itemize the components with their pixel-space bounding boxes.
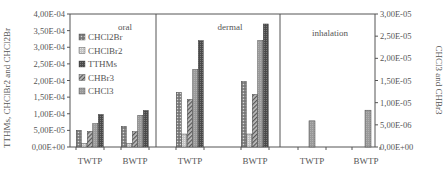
panel-label: inhalation (312, 28, 348, 38)
panel-label: oral (118, 22, 132, 32)
bar-chcl3 (193, 70, 198, 147)
right-tick-label: 5,00E-06 (380, 120, 411, 130)
bar-chcl2br (76, 130, 81, 147)
left-tick-label: 1,50E-04 (34, 92, 66, 102)
legend-swatch (79, 75, 85, 81)
left-tick-label: 4,00E-04 (34, 9, 66, 19)
x-tick-label: BWTP (353, 156, 378, 166)
left-y-axis: 0,00E+005,00E-051,00E-041,50E-042,00E-04… (32, 9, 70, 152)
bar-chcl2br (176, 92, 181, 147)
bar-chclbr2 (182, 134, 187, 147)
x-tick-label: TWTP (78, 156, 103, 166)
x-tick-label: TWTP (300, 156, 325, 166)
legend-label: TTHMs (88, 59, 117, 69)
left-tick-label: 5,00E-05 (34, 125, 65, 135)
right-tick-label: 3,00E-05 (380, 9, 411, 19)
bar-chbr3 (87, 131, 92, 147)
bar-chcl2br (241, 81, 246, 147)
right-tick-label: 0,00E+00 (380, 142, 413, 152)
bar-chclbr2 (82, 144, 87, 147)
bar-chcl2br (121, 126, 126, 147)
bar-chcl3-inhalation (365, 110, 371, 147)
left-tick-label: 3,50E-04 (34, 26, 66, 36)
x-tick-label: BWTP (242, 156, 267, 166)
right-axis-label: CHCl3 and CHBr3 (434, 45, 444, 115)
left-tick-label: 2,00E-04 (34, 76, 66, 86)
bar-tthms (263, 24, 268, 147)
right-tick-label: 2,50E-05 (380, 31, 411, 41)
bar-chbr3 (132, 132, 137, 147)
bar-chbr3 (252, 94, 257, 147)
right-tick-label: 1,50E-05 (380, 76, 411, 86)
legend-label: CHCl3 (88, 86, 114, 96)
bars (76, 24, 371, 147)
bar-chcl3-inhalation (309, 121, 315, 147)
panel-label: dermal (218, 22, 243, 32)
bar-chcl3 (258, 41, 263, 147)
bar-chclbr2 (247, 134, 252, 147)
legend-swatch (79, 48, 85, 54)
left-tick-label: 2,50E-04 (34, 59, 66, 69)
x-axis: TWTPBWTPTWTPBWTPTWTPBWTP (76, 147, 380, 166)
legend-label: CHBr3 (88, 73, 115, 83)
bar-chcl3 (93, 124, 98, 147)
right-y-axis: 0,00E+005,00E-061,00E-051,50E-052,00E-05… (375, 9, 413, 152)
panel-labels: oraldermalinhalation (118, 22, 348, 38)
right-tick-label: 1,00E-05 (380, 98, 411, 108)
legend: CHCl2BrCHClBr2TTHMsCHBr3CHCl3 (79, 32, 123, 96)
bar-tthms (98, 114, 103, 147)
left-tick-label: 3,00E-04 (34, 42, 66, 52)
left-tick-label: 1,00E-04 (34, 109, 66, 119)
bar-tthms (143, 110, 148, 147)
chart: 0,00E+005,00E-051,00E-041,50E-042,00E-04… (0, 0, 445, 174)
bar-tthms (198, 41, 203, 147)
x-tick-label: BWTP (122, 156, 147, 166)
left-tick-label: 0,00E+00 (32, 142, 65, 152)
legend-swatch (79, 61, 85, 67)
legend-label: CHClBr2 (88, 46, 123, 56)
left-axis-label: TTHMs, CHClBr2 and CHCl2Br (2, 28, 12, 148)
legend-swatch (79, 34, 85, 40)
bar-chcl3 (138, 115, 143, 147)
legend-label: CHCl2Br (88, 32, 123, 42)
right-tick-label: 2,00E-05 (380, 53, 411, 63)
legend-swatch (79, 88, 85, 94)
x-tick-label: TWTP (178, 156, 203, 166)
bar-chclbr2 (127, 144, 132, 147)
bar-chbr3 (187, 99, 192, 147)
